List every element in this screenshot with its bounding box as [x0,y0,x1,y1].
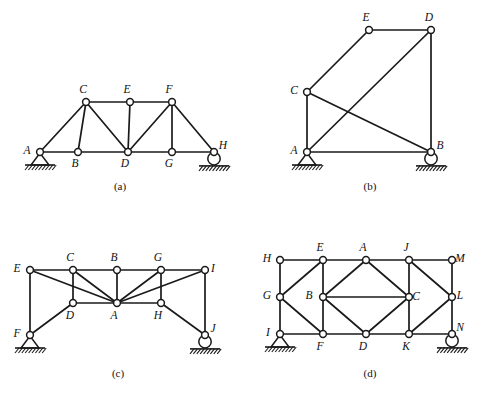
joint-label-G: G [154,251,163,263]
joint-label-N: N [455,321,465,333]
truss-joint-A [363,257,370,264]
truss-joint-B [114,267,121,274]
joint-label-A: A [358,241,367,253]
truss-joint-B [428,149,435,156]
truss-joint-D [363,331,370,338]
joint-label-C: C [79,83,87,95]
truss-member-AC [366,260,409,297]
truss-joint-L [449,294,456,301]
joint-label-H: H [218,139,228,151]
truss-member-DC [366,297,409,334]
joint-label-I: I [265,326,271,338]
truss-joint-E [366,27,373,34]
joint-label-E: E [315,241,323,253]
truss-joint-F [320,331,327,338]
joint-label-F: F [315,340,324,352]
truss-joint-K [406,331,413,338]
truss-joint-H [211,149,218,156]
truss-member-CD [86,102,128,152]
joint-label-D: D [358,340,368,352]
truss-joint-G [158,267,165,274]
truss-joint-I [202,267,209,274]
joint-label-M: M [454,252,466,264]
truss-member-GA [117,270,161,303]
truss-joint-B [320,294,327,301]
panel-caption-d: (d) [340,367,400,379]
truss-member-ED [128,102,130,152]
truss-joint-D [428,27,435,34]
panel-caption-b: (b) [340,180,400,192]
truss-member-BA [323,260,366,297]
joint-label-F: F [12,327,21,339]
truss-joint-N [449,331,456,338]
truss-diagram-b: ABCDE [249,0,498,198]
truss-member-HJ [161,303,205,335]
joint-label-C: C [290,84,298,96]
panel-caption-c: (c) [88,367,148,379]
truss-joint-E [27,267,34,274]
joint-label-G: G [165,157,174,169]
joint-label-B: B [436,139,443,151]
joint-label-I: I [210,262,216,274]
joint-label-A: A [22,144,31,156]
truss-member-AD [307,30,431,152]
joint-label-E: E [361,11,369,23]
truss-joint-J [202,332,209,339]
joint-label-C: C [66,251,74,263]
joint-label-F: F [164,83,173,95]
joint-label-H: H [262,252,272,264]
joint-label-L: L [456,289,463,301]
truss-diagram-a: ABCDEFGH [0,0,249,198]
truss-member-FH [172,102,214,152]
joint-label-H: H [153,309,163,321]
joint-label-J: J [210,322,216,334]
joint-label-C: C [412,290,420,302]
truss-joint-E [320,257,327,264]
truss-panel-b: ABCDE [249,0,498,198]
truss-joint-I [277,331,284,338]
truss-joint-A [37,149,44,156]
truss-member-CA [73,270,117,303]
joint-label-B: B [110,251,117,263]
figure-sheet: ABCDEFGH(a)ABCDE(b)ECBGIDAHFJ(c)HEAJMGBC… [0,0,498,396]
truss-joint-G [169,149,176,156]
joint-label-D: D [120,157,130,169]
joint-label-A: A [289,144,298,156]
truss-joint-E [127,99,134,106]
truss-member-GF [280,297,323,334]
truss-member-KL [409,297,452,334]
truss-joint-J [406,257,413,264]
truss-joint-H [277,257,284,264]
truss-panel-a: ABCDEFGH [0,0,249,198]
joint-label-J: J [403,241,409,253]
truss-member-FD [128,102,172,152]
truss-joint-H [158,300,165,307]
truss-joint-C [70,267,77,274]
joint-label-D: D [65,309,75,321]
truss-member-CB [307,92,431,152]
truss-joint-A [114,300,121,307]
joint-label-K: K [401,340,411,352]
truss-joint-G [277,294,284,301]
panel-caption-a: (a) [90,180,150,192]
joint-label-E: E [122,83,130,95]
truss-joint-D [70,300,77,307]
truss-member-CE [307,30,369,92]
truss-joint-A [304,149,311,156]
joint-label-G: G [263,289,272,301]
joint-label-B: B [305,289,312,301]
truss-member-BD [323,297,366,334]
truss-joint-B [75,149,82,156]
joint-label-E: E [12,262,20,274]
joint-label-D: D [424,11,434,23]
truss-joint-C [304,89,311,96]
truss-joint-D [125,149,132,156]
joint-label-A: A [109,309,118,321]
joint-label-B: B [71,157,78,169]
truss-joint-F [169,99,176,106]
truss-joint-F [27,332,34,339]
truss-member-GE [280,260,323,297]
truss-joint-C [83,99,90,106]
